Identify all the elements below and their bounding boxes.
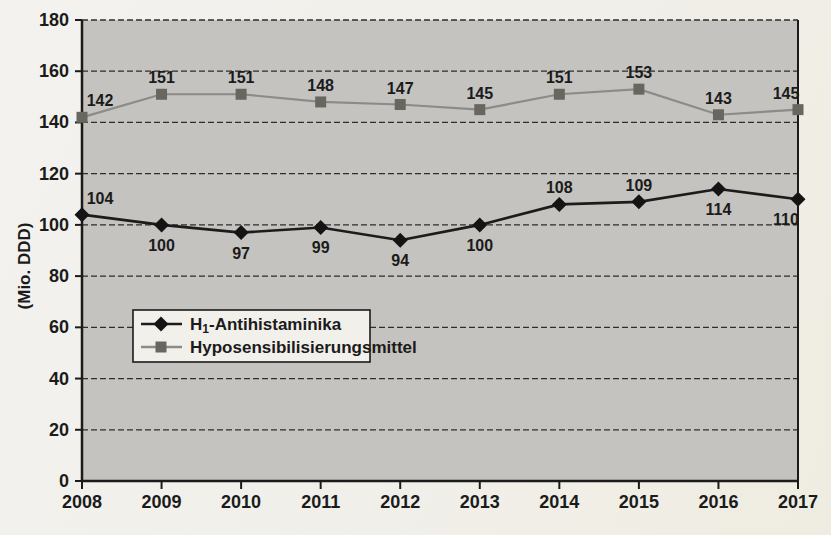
data-label: 145 (466, 85, 493, 102)
square-marker (77, 112, 88, 123)
data-label: 153 (626, 64, 653, 81)
legend-label: H1-Antihistaminika (190, 315, 342, 336)
data-label: 151 (546, 69, 573, 86)
data-label: 145 (773, 85, 800, 102)
data-label: 143 (705, 90, 732, 107)
x-tick-label: 2009 (142, 492, 182, 512)
y-tick-label: 0 (59, 471, 69, 491)
y-tick-label: 20 (49, 420, 69, 440)
data-label: 110 (773, 211, 799, 228)
x-tick-label: 2008 (62, 492, 102, 512)
data-label: 147 (387, 80, 414, 97)
y-tick-label: 160 (39, 61, 69, 81)
y-tick-label: 120 (39, 164, 69, 184)
y-tick-label: 100 (39, 215, 69, 235)
y-tick-label: 60 (49, 317, 69, 337)
data-label: 99 (312, 239, 330, 256)
square-marker (156, 342, 167, 353)
plot-area (82, 20, 798, 481)
data-label: 148 (307, 77, 334, 94)
x-axis: 2008200920102011201220132014201520162017 (62, 481, 818, 512)
scanned-book-page: 0204060801001201401601802008200920102011… (0, 0, 831, 535)
x-tick-label: 2011 (301, 492, 340, 512)
legend-label: Hyposensibilisierungsmittel (190, 338, 417, 357)
square-marker (713, 109, 724, 120)
data-label: 100 (466, 237, 493, 254)
x-tick-label: 2013 (460, 492, 500, 512)
x-tick-label: 2012 (380, 492, 420, 512)
y-tick-label: 80 (49, 266, 69, 286)
y-axis-title: (Mio. DDD) (15, 223, 34, 310)
square-marker (395, 99, 406, 110)
ddd-line-chart-figure: 0204060801001201401601802008200920102011… (0, 0, 831, 535)
x-tick-label: 2015 (619, 492, 659, 512)
data-label: 108 (546, 179, 573, 196)
data-label: 151 (228, 69, 255, 86)
square-marker (793, 104, 804, 115)
square-marker (236, 89, 247, 100)
x-tick-label: 2016 (698, 492, 738, 512)
data-label: 97 (232, 245, 250, 262)
y-tick-label: 40 (49, 369, 69, 389)
x-tick-label: 2010 (221, 492, 261, 512)
data-label: 94 (391, 252, 409, 269)
data-label: 151 (148, 69, 175, 86)
y-axis: 020406080100120140160180 (39, 10, 82, 491)
square-marker (315, 96, 326, 107)
data-label: 142 (87, 92, 114, 109)
square-marker (633, 84, 644, 95)
square-marker (156, 89, 167, 100)
data-label: 100 (148, 237, 175, 254)
x-tick-label: 2017 (778, 492, 818, 512)
data-label: 114 (706, 201, 732, 218)
chart-canvas: 0204060801001201401601802008200920102011… (0, 0, 831, 535)
data-label: 109 (626, 177, 653, 194)
square-marker (474, 104, 485, 115)
x-tick-label: 2014 (539, 492, 579, 512)
data-label: 104 (87, 190, 114, 207)
y-tick-label: 140 (39, 112, 69, 132)
square-marker (554, 89, 565, 100)
y-tick-label: 180 (39, 10, 69, 30)
